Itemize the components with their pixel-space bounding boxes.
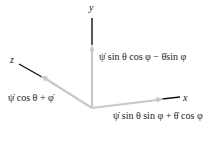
z-axis-line xyxy=(19,64,42,77)
x-axis-label: x xyxy=(183,93,187,103)
y-arrowhead-icon xyxy=(90,44,95,51)
x-arrowhead-icon xyxy=(156,97,164,103)
x-component-arrow xyxy=(92,100,157,108)
z-axis-label: z xyxy=(10,55,14,65)
z-component-label: ψ̇ cos θ + φ̇ xyxy=(8,93,54,103)
y-component-label: ψ̇ sin θ cos φ − θ̇sin φ xyxy=(99,52,186,62)
y-axis-label: y xyxy=(89,3,93,13)
x-axis-line xyxy=(162,97,180,99)
x-component-label: ψ̇ sin θ sin φ + θ̇ cos φ xyxy=(113,111,203,121)
